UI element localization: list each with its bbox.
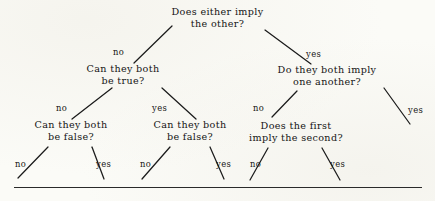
edge-label-noyes-yes: yes (216, 160, 231, 169)
edge-label-noyes-no: no (140, 160, 151, 169)
edge-label-do-imply-no: no (253, 104, 264, 113)
edge-label-nono-yes: yes (96, 160, 111, 169)
node-can-false-left-line2: be false? (21, 131, 121, 143)
node-first-imply-line1: Does the first (261, 120, 332, 131)
node-can-false-right-line2: be false? (140, 131, 240, 143)
node-root-line2: the other? (160, 18, 275, 30)
node-can-they-both-be-false-left: Can they both be false? (21, 119, 121, 143)
edge-label-do-imply-yes: yes (408, 106, 423, 115)
node-root: Does either imply the other? (160, 6, 275, 30)
edge-label-root-no: no (113, 48, 124, 57)
edge-root-to-do-both-imply (265, 30, 311, 64)
edge-label-can-true-no: no (56, 104, 67, 113)
edge-do-both-imply-to-no (272, 91, 297, 117)
node-can-true-line1: Can they both (87, 63, 160, 74)
scanned-page: Does either imply the other? Can they bo… (0, 0, 435, 201)
node-do-imply-line1: Do they both imply (278, 64, 377, 75)
node-do-they-both-imply-one-another: Do they both imply one another? (266, 64, 388, 88)
edge-label-root-yes: yes (306, 50, 321, 59)
edge-label-can-true-yes: yes (152, 104, 167, 113)
edge-label-yesno-no: no (250, 160, 261, 169)
node-can-they-both-be-true: Can they both be true? (73, 63, 173, 87)
node-root-line1: Does either imply (172, 6, 264, 17)
edge-label-nono-no: no (15, 160, 26, 169)
node-can-false-left-line1: Can they both (35, 119, 108, 130)
edge-do-both-imply-to-yes (384, 88, 410, 124)
node-can-they-both-be-false-right: Can they both be false? (140, 119, 240, 143)
node-can-false-right-line1: Can they both (154, 119, 227, 130)
node-do-imply-line2: one another? (266, 76, 388, 88)
node-can-true-line2: be true? (73, 75, 173, 87)
edge-root-to-can-both-be-true (134, 26, 172, 63)
node-does-the-first-imply-the-second: Does the first imply the second? (240, 120, 352, 144)
edge-can-both-true-to-no (72, 88, 112, 119)
node-first-imply-line2: imply the second? (240, 132, 352, 144)
edge-label-yesno-yes: yes (330, 160, 345, 169)
page-horizontal-rule (14, 187, 422, 188)
